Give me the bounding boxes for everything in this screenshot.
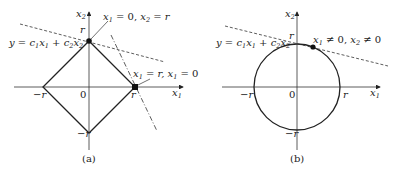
tangent-point: [310, 44, 315, 49]
x2-axis-label-a: x2: [76, 8, 86, 21]
tick-origin-a: 0: [80, 89, 86, 100]
leader-line-top: [91, 21, 108, 39]
tick-top-b: r: [289, 30, 295, 41]
objective-label-a: y = c1x1 + c2x2: [8, 37, 83, 50]
x1-axis-label-b: x1: [370, 87, 380, 100]
annotation-right-a: x1 = r, x1 = 0: [133, 68, 198, 81]
caption-b: (b): [290, 153, 304, 164]
panel-b: x2 r x1 −r 0 r −r y = c1x1 + c2x2 x1 ≠ 0…: [215, 8, 388, 164]
objective-line-dashdot-a: [111, 35, 157, 131]
tick-right-b: r: [343, 89, 349, 100]
panel-a: x2 r x1 −r 0 r −r y = c1x1 + c2x2 x1 = 0…: [8, 8, 198, 164]
tick-origin-b: 0: [289, 89, 295, 100]
contact-point-top: [86, 38, 92, 44]
tick-left-b: −r: [240, 89, 254, 100]
annotation-tangent-b: x1 ≠ 0, x2 ≠ 0: [313, 34, 381, 47]
caption-a: (a): [82, 153, 96, 164]
tick-right-a: r: [131, 89, 137, 100]
x1-axis-label-a: x1: [172, 87, 182, 100]
tick-bottom-b: −r: [285, 128, 299, 139]
tick-left-a: −r: [33, 89, 47, 100]
figure-canvas: x2 r x1 −r 0 r −r y = c1x1 + c2x2 x1 = 0…: [0, 0, 394, 174]
x2-axis-label-b: x2: [285, 8, 295, 21]
tick-top-a: r: [80, 24, 86, 35]
annotation-top-a: x1 = 0, x2 = r: [103, 11, 171, 24]
tick-bottom-a: −r: [77, 128, 91, 139]
